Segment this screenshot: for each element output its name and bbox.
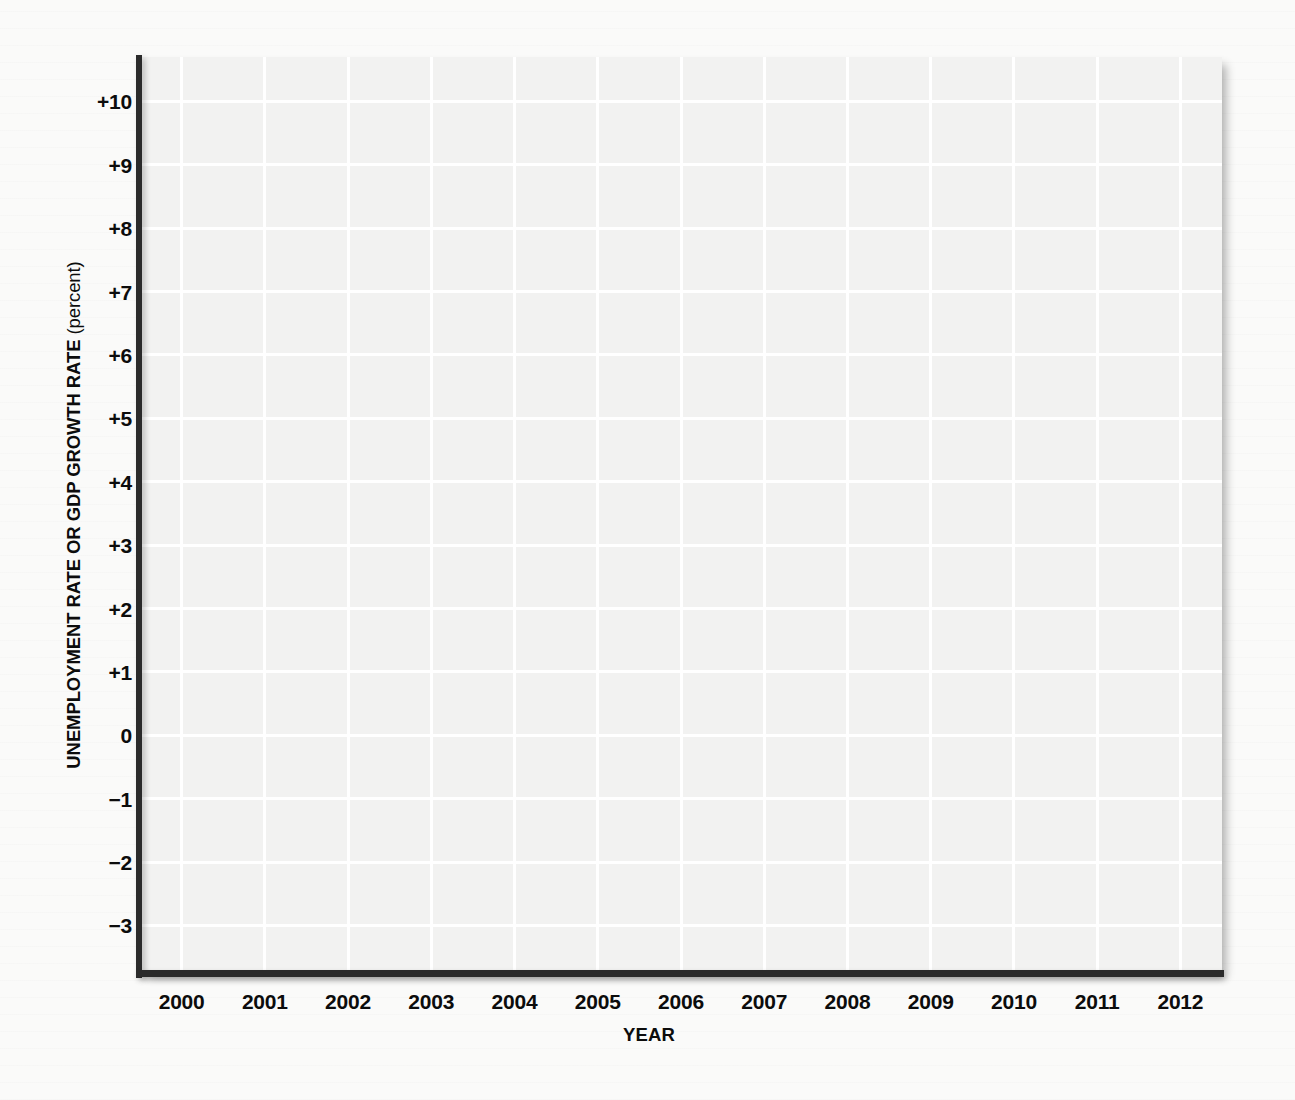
gridline-vertical xyxy=(513,57,516,973)
gridline-vertical xyxy=(1096,57,1099,973)
gridline-vertical xyxy=(263,57,266,973)
gridline-vertical xyxy=(347,57,350,973)
gridline-vertical xyxy=(763,57,766,973)
plot-area xyxy=(140,57,1222,973)
gridlines xyxy=(140,57,1222,973)
x-tick-label: 2002 xyxy=(325,991,371,1012)
x-tick-label: 2009 xyxy=(908,991,954,1012)
gridline-vertical xyxy=(430,57,433,973)
y-tick-label: +4 xyxy=(108,471,132,492)
y-tick-label: −3 xyxy=(108,915,132,936)
x-tick-label: 2004 xyxy=(492,991,538,1012)
y-tick-label: +3 xyxy=(108,535,132,556)
gridline-vertical xyxy=(846,57,849,973)
gridline-vertical xyxy=(1179,57,1182,973)
x-tick-label: 2003 xyxy=(408,991,454,1012)
gridline-vertical xyxy=(1012,57,1015,973)
x-tick-label: 2012 xyxy=(1157,991,1203,1012)
y-axis-title-unit: (percent) xyxy=(63,261,84,339)
y-tick-label: +1 xyxy=(108,661,132,682)
y-tick-label: +5 xyxy=(108,408,132,429)
chart-figure: +10+9+8+7+6+5+4+3+2+10−1−2−3 20002001200… xyxy=(0,0,1295,1100)
y-tick-label: +8 xyxy=(108,218,132,239)
y-tick-label: 0 xyxy=(121,725,132,746)
y-tick-label: +2 xyxy=(108,598,132,619)
x-axis-spine xyxy=(136,970,1224,977)
y-axis-title: UNEMPLOYMENT RATE OR GDP GROWTH RATE (pe… xyxy=(63,261,85,768)
y-axis-spine xyxy=(136,55,142,978)
x-tick-label: 2010 xyxy=(991,991,1037,1012)
x-tick-label: 2000 xyxy=(159,991,205,1012)
gridline-vertical xyxy=(929,57,932,973)
y-tick-label: −1 xyxy=(108,788,132,809)
x-axis-title: YEAR xyxy=(623,1024,675,1046)
x-tick-label: 2008 xyxy=(824,991,870,1012)
x-tick-label: 2001 xyxy=(242,991,288,1012)
y-tick-label: +9 xyxy=(108,154,132,175)
y-tick-label: −2 xyxy=(108,852,132,873)
x-tick-label: 2006 xyxy=(658,991,704,1012)
y-tick-label: +6 xyxy=(108,344,132,365)
gridline-vertical xyxy=(680,57,683,973)
x-tick-label: 2005 xyxy=(575,991,621,1012)
y-axis-title-main: UNEMPLOYMENT RATE OR GDP GROWTH RATE xyxy=(63,340,84,769)
gridline-vertical xyxy=(180,57,183,973)
x-tick-label: 2007 xyxy=(741,991,787,1012)
x-tick-label: 2011 xyxy=(1075,991,1120,1012)
y-tick-label: +7 xyxy=(108,281,132,302)
gridline-vertical xyxy=(596,57,599,973)
y-tick-label: +10 xyxy=(97,91,132,112)
